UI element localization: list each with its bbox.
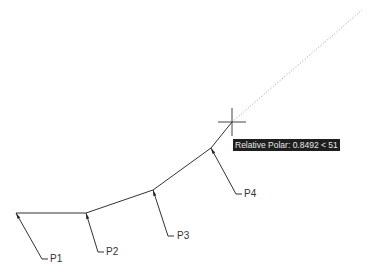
- polar-tracking-line: [232, 10, 362, 122]
- crosshair-cursor-icon: [218, 108, 246, 136]
- callout-label-p3: P3: [177, 231, 189, 241]
- polar-tooltip: Relative Polar: 0.8492 < 51: [233, 139, 340, 151]
- callout-leaders: [16, 148, 242, 259]
- leader-p3: [153, 190, 174, 236]
- leader-p1: [16, 213, 48, 259]
- arrowhead-icon: [211, 148, 215, 154]
- callout-label-p1: P1: [50, 254, 62, 264]
- polyline-segments[interactable]: [16, 122, 232, 213]
- leader-p4: [211, 148, 242, 194]
- arrowhead-icon: [153, 190, 156, 196]
- leader-p2: [86, 213, 104, 252]
- arrowhead-icon: [86, 213, 89, 219]
- arrowhead-icon: [16, 213, 20, 219]
- callout-label-p2: P2: [106, 247, 118, 257]
- callout-label-p4: P4: [244, 189, 256, 199]
